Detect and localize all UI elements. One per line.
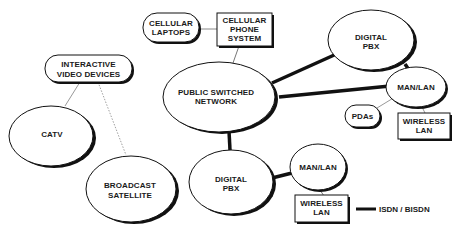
cellular-phone-system-line3: SYSTEM [228,34,262,43]
edge-phone-psn [233,46,239,63]
node-catv[interactable]: CATV [9,106,96,168]
ivd-line2: VIDEO DEVICES [57,70,121,79]
node-man-lan-right[interactable]: MAN/LAN [386,67,448,109]
node-cellular-laptops[interactable]: CELLULAR LAPTOPS [143,13,201,44]
wireless-lan-right-line2: LAN [416,126,433,135]
psn-line1: PUBLIC SWITCHED [178,88,254,97]
node-digital-pbx-bottom[interactable]: DIGITAL PBX [189,150,276,216]
edge-psn-pbx-bottom [229,131,230,150]
node-wireless-lan-bottom[interactable]: WIRELESS LAN [295,195,350,224]
digital-pbx-bottom-line1: DIGITAL [215,175,247,184]
wireless-lan-right-line1: WIRELESS [403,117,446,126]
cellular-phone-system-line2: PHONE [230,25,260,34]
broadcast-satellite-line2: SATELLITE [108,191,152,200]
catv-label: CATV [41,130,63,139]
node-broadcast-satellite[interactable]: BROADCAST SATELLITE [86,156,179,224]
cellular-laptops-line1: CELLULAR [149,19,193,28]
wireless-lan-bottom-line2: LAN [313,208,330,217]
broadcast-satellite-line1: BROADCAST [104,181,156,190]
edge-ivd-catv [65,82,80,106]
pdas-label: PDAs [352,112,374,121]
node-interactive-video-devices[interactable]: INTERACTIVE VIDEO DEVICES [45,55,134,84]
man-lan-bottom-label: MAN/LAN [299,163,337,172]
digital-pbx-top-line2: PBX [363,42,380,51]
man-lan-right-label: MAN/LAN [397,83,435,92]
node-pdas[interactable]: PDAs [345,105,382,129]
edge-ivd-satellite [98,82,126,155]
node-public-switched-network[interactable]: PUBLIC SWITCHED NETWORK [163,62,278,134]
legend: ISDN / BISDN [356,205,430,214]
wireless-lan-bottom-line1: WIRELESS [300,199,343,208]
ivd-line1: INTERACTIVE [61,60,116,69]
digital-pbx-top-line1: DIGITAL [355,33,387,42]
node-wireless-lan-right[interactable]: WIRELESS LAN [398,113,452,141]
digital-pbx-bottom-line2: PBX [223,184,240,193]
legend-label: ISDN / BISDN [379,205,430,214]
node-man-lan-bottom[interactable]: MAN/LAN [290,144,348,192]
psn-line2: NETWORK [195,97,237,106]
cellular-phone-system-line1: CELLULAR [223,16,267,25]
node-cellular-phone-system[interactable]: CELLULAR PHONE SYSTEM [217,13,274,48]
node-digital-pbx-top[interactable]: DIGITAL PBX [328,10,417,72]
cellular-laptops-line2: LAPTOPS [152,28,191,37]
edge-psn-manlan-right [279,86,390,97]
network-diagram: CELLULAR LAPTOPS CELLULAR PHONE SYSTEM P… [0,0,463,231]
